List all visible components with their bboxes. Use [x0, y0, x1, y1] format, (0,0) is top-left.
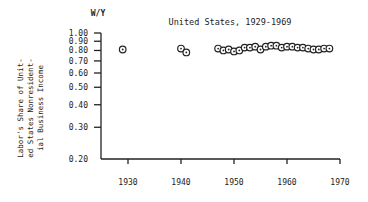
- x-tick-label: 1950: [224, 178, 243, 187]
- y-tick-label: 0.40: [69, 101, 88, 110]
- x-tick-label: 1970: [330, 178, 349, 187]
- labor-share-chart: United States, 1929-1969 W/Y Labor's Sha…: [0, 0, 368, 202]
- chart-title: United States, 1929-1969: [169, 17, 292, 27]
- data-point-marker: [183, 49, 190, 56]
- y-axis-label-line-2: ed States Nonresident-: [26, 58, 35, 157]
- data-point-marker: [326, 45, 333, 52]
- y-tick-label: 0.70: [69, 57, 88, 66]
- y-ticks: 1.000.900.800.700.600.500.400.300.20: [69, 29, 101, 164]
- y-tick-label: 0.30: [69, 123, 88, 132]
- y-tick-label: 0.90: [69, 37, 88, 46]
- x-tick-label: 1960: [277, 178, 296, 187]
- y-axis-top-label: W/Y: [91, 9, 106, 18]
- x-ticks: 19301940195019601970: [118, 159, 349, 187]
- y-axis-label-line-1: Labor's Share of Unit-: [16, 58, 25, 157]
- data-points: [119, 42, 332, 55]
- y-axis-label-line-3: ial Business Income: [36, 65, 45, 151]
- x-tick-label: 1940: [171, 178, 190, 187]
- data-point-marker: [119, 46, 126, 53]
- y-tick-label: 0.60: [69, 69, 88, 78]
- y-tick-label: 0.20: [69, 155, 88, 164]
- y-axis-label: Labor's Share of Unit- ed States Nonresi…: [16, 58, 45, 157]
- y-tick-label: 0.80: [69, 46, 88, 55]
- y-tick-label: 0.50: [69, 83, 88, 92]
- x-tick-label: 1930: [118, 178, 137, 187]
